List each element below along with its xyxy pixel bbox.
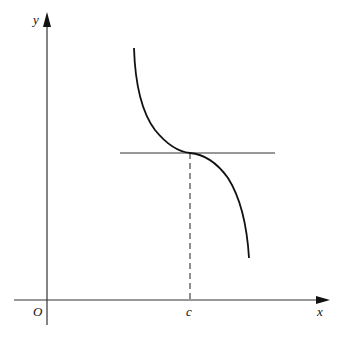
y-axis-label: y bbox=[33, 13, 39, 26]
y-axis-arrow-icon bbox=[43, 12, 51, 27]
x-axis-label: x bbox=[317, 305, 323, 318]
diagram-canvas bbox=[0, 0, 337, 338]
x-axis-arrow-icon bbox=[316, 296, 330, 304]
origin-label: O bbox=[33, 305, 42, 318]
point-c-label: c bbox=[186, 305, 192, 318]
